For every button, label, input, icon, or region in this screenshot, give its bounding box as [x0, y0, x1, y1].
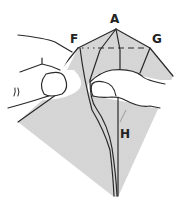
label-point-g: G — [152, 33, 162, 45]
label-point-f: F — [70, 33, 78, 45]
label-apex-a: A — [110, 13, 119, 25]
label-crease-h: H — [120, 128, 130, 140]
